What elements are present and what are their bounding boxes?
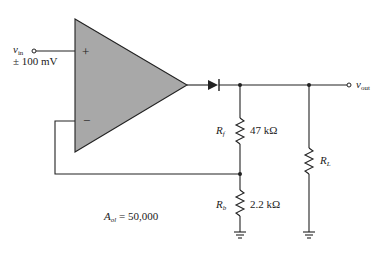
diode-symbol xyxy=(208,79,219,91)
rf-value-label: 47 kΩ xyxy=(250,124,277,136)
rl-name-label: RL xyxy=(319,154,331,168)
circuit-diagram: + − vin ± 100 mV vout Rf 47 kΩ Rb 2.2 kΩ xyxy=(0,0,389,256)
rf-resistor xyxy=(236,118,244,144)
vin-amplitude-label: ± 100 mV xyxy=(13,55,58,67)
opamp-triangle xyxy=(75,19,187,152)
input-terminal xyxy=(32,49,36,53)
open-loop-gain-label: Aol = 50,000 xyxy=(103,210,159,224)
rb-name-label: Rb xyxy=(215,198,227,212)
ground-symbol-rl xyxy=(303,232,315,238)
rb-resistor xyxy=(236,190,244,216)
rf-name-label: Rf xyxy=(215,124,226,138)
output-terminal xyxy=(347,83,351,87)
ground-symbol-rb xyxy=(234,232,246,238)
opamp-plus-label: + xyxy=(82,44,89,59)
vout-label: vout xyxy=(356,78,370,92)
rl-resistor xyxy=(305,148,313,174)
rb-value-label: 2.2 kΩ xyxy=(250,198,280,210)
opamp-minus-label: − xyxy=(83,113,90,128)
